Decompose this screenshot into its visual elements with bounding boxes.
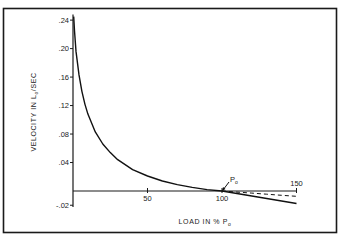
x-tick-label: 150 — [290, 179, 303, 188]
data-series — [74, 17, 297, 204]
x-axis-title: LOAD IN % Po — [179, 218, 232, 227]
x-tick-label: 100 — [216, 194, 229, 203]
axis-ticks: .24.20.16.12.08.04-.0250100150 — [56, 16, 303, 210]
y-tick-label: .12 — [59, 101, 69, 110]
y-tick-label: .24 — [59, 16, 69, 25]
x-tick-label: 50 — [143, 194, 151, 203]
y-tick-label: .20 — [59, 44, 69, 53]
dashed-extrapolation-line — [222, 191, 297, 196]
force-velocity-chart: .24.20.16.12.08.04-.0250100150 Po LOAD I… — [0, 0, 340, 239]
p0-annotation: Po — [222, 175, 238, 191]
chart-frame — [4, 9, 337, 233]
solid-velocity-curve — [74, 17, 297, 204]
p0-label-subscript: o — [235, 179, 238, 185]
y-tick-label: .16 — [59, 73, 69, 82]
x-axis-title-subscript: o — [228, 221, 231, 227]
axes — [73, 15, 297, 207]
y-tick-label: -.02 — [56, 201, 69, 210]
p0-label: Po — [230, 175, 238, 185]
y-axis-title: VELOCITY IN Lo/SEC — [30, 72, 39, 151]
y-tick-label: .08 — [59, 130, 69, 139]
y-tick-label: .04 — [59, 158, 69, 167]
